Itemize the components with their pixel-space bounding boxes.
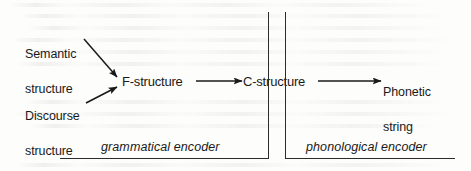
encoder-diagram-figure: Semantic structure Discourse structure F… — [0, 0, 471, 171]
arrow-layer — [0, 0, 471, 171]
arrow-discourse-to-f-structure — [86, 87, 117, 103]
arrow-semantic-to-f-structure — [84, 39, 117, 77]
